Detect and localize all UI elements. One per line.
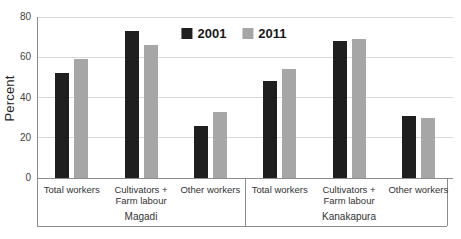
category-label-line: Other workers <box>384 184 453 195</box>
legend-item-2001: 2001 <box>181 26 226 41</box>
legend-swatch-2001 <box>181 28 192 39</box>
y-tick-label-20: 20 <box>5 133 31 143</box>
group-label-magadi: Magadi <box>37 211 245 222</box>
legend: 2001 2011 <box>181 26 286 41</box>
legend-swatch-2011 <box>242 28 253 39</box>
category-label-line: Farm labour <box>106 195 175 206</box>
bar-2011-cat0 <box>74 59 88 178</box>
legend-label-2011: 2011 <box>258 26 286 41</box>
category-label-line: Cultivators + <box>106 184 175 195</box>
bar-2011-cat4 <box>352 39 366 178</box>
y-tick-label-80: 80 <box>5 12 31 22</box>
y-tick-label-0: 0 <box>5 173 31 183</box>
y-axis-line <box>37 17 38 178</box>
bar-2001-cat1 <box>125 31 139 178</box>
bar-2001-cat0 <box>55 73 69 178</box>
bar-2001-cat4 <box>333 41 347 178</box>
y-tick-label-40: 40 <box>5 93 31 103</box>
gridline-20 <box>37 137 453 138</box>
bar-2001-cat3 <box>263 81 277 178</box>
bar-2011-cat2 <box>213 112 227 178</box>
bar-2011-cat3 <box>282 69 296 178</box>
legend-label-2001: 2001 <box>197 26 226 41</box>
bar-2001-cat5 <box>402 116 416 178</box>
category-label-1: Cultivators +Farm labour <box>106 184 175 206</box>
category-label-line: Cultivators + <box>314 184 383 195</box>
category-label-4: Cultivators +Farm labour <box>314 184 383 206</box>
y-tick-label-60: 60 <box>5 52 31 62</box>
bar-2011-cat1 <box>144 45 158 178</box>
category-label-3: Total workers <box>245 184 314 195</box>
bar-2011-cat5 <box>421 118 435 178</box>
bar-chart: Percent 2001 2011 020406080Total workers… <box>0 0 461 239</box>
category-label-0: Total workers <box>37 184 106 195</box>
gridline-60 <box>37 57 453 58</box>
category-label-line: Total workers <box>37 184 106 195</box>
bar-2001-cat2 <box>194 126 208 178</box>
axis-table-bottom-border <box>37 226 447 227</box>
category-label-5: Other workers <box>384 184 453 195</box>
category-label-line: Farm labour <box>314 195 383 206</box>
category-label-line: Other workers <box>176 184 245 195</box>
group-label-kanakapura: Kanakapura <box>245 211 453 222</box>
gridline-80 <box>37 17 453 18</box>
gridline-40 <box>37 97 453 98</box>
legend-item-2011: 2011 <box>242 26 286 41</box>
category-label-2: Other workers <box>176 184 245 195</box>
category-label-line: Total workers <box>245 184 314 195</box>
